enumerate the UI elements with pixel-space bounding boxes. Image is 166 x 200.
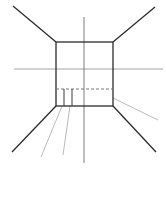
- canvas-background: [0, 0, 166, 200]
- perspective-drawing-canvas: [0, 0, 166, 200]
